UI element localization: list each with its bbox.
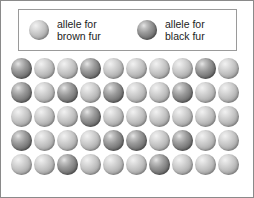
allele-marker-brown-fur [218,154,239,175]
allele-marker-brown-fur [195,154,216,175]
allele-diagram-panel: allele for brown fur allele for black fu… [0,0,254,198]
allele-marker-black-fur [172,130,193,151]
allele-grid-row [11,82,239,103]
allele-marker-black-fur [57,82,78,103]
allele-marker-black-fur [103,130,124,151]
allele-black-fur-swatch-icon [137,20,157,40]
allele-marker-black-fur [195,58,216,79]
allele-marker-brown-fur [149,106,170,127]
allele-marker-brown-fur [149,58,170,79]
allele-marker-brown-fur [195,130,216,151]
allele-marker-brown-fur [57,106,78,127]
legend-label-brown-fur: allele for brown fur [57,18,101,43]
allele-marker-brown-fur [57,58,78,79]
legend-label-black-fur: allele for black fur [165,18,205,43]
allele-grid-row [11,58,239,79]
allele-marker-brown-fur [103,58,124,79]
allele-marker-brown-fur [34,106,55,127]
allele-marker-brown-fur [149,82,170,103]
legend-entry-black-fur: allele for black fur [131,18,236,43]
allele-marker-brown-fur [11,106,32,127]
allele-marker-brown-fur [80,130,101,151]
allele-marker-black-fur [57,154,78,175]
allele-marker-brown-fur [126,154,147,175]
allele-brown-fur-swatch-icon [29,20,49,40]
allele-marker-brown-fur [80,82,101,103]
allele-marker-brown-fur [34,82,55,103]
allele-marker-brown-fur [126,106,147,127]
allele-marker-brown-fur [195,106,216,127]
allele-marker-black-fur [80,58,101,79]
allele-marker-brown-fur [126,58,147,79]
allele-grid-row [11,106,239,127]
allele-marker-black-fur [11,58,32,79]
allele-marker-brown-fur [218,58,239,79]
allele-grid-row [11,154,239,175]
allele-marker-black-fur [172,82,193,103]
allele-marker-black-fur [103,82,124,103]
allele-grid [11,58,239,175]
legend-box: allele for brown fur allele for black fu… [18,9,237,51]
allele-marker-brown-fur [218,130,239,151]
allele-marker-brown-fur [103,106,124,127]
allele-marker-brown-fur [103,154,124,175]
allele-marker-brown-fur [126,82,147,103]
allele-marker-brown-fur [172,154,193,175]
allele-marker-brown-fur [172,58,193,79]
allele-marker-black-fur [149,154,170,175]
allele-marker-brown-fur [57,130,78,151]
allele-marker-brown-fur [80,154,101,175]
allele-marker-black-fur [80,106,101,127]
legend-entry-brown-fur: allele for brown fur [19,18,131,43]
allele-marker-brown-fur [34,154,55,175]
allele-marker-brown-fur [34,58,55,79]
allele-marker-brown-fur [218,82,239,103]
allele-marker-brown-fur [195,82,216,103]
allele-marker-brown-fur [149,130,170,151]
allele-marker-black-fur [11,82,32,103]
allele-marker-brown-fur [34,130,55,151]
allele-grid-row [11,130,239,151]
allele-marker-black-fur [11,130,32,151]
allele-marker-brown-fur [218,106,239,127]
allele-marker-brown-fur [172,106,193,127]
allele-marker-brown-fur [11,154,32,175]
allele-marker-black-fur [126,130,147,151]
